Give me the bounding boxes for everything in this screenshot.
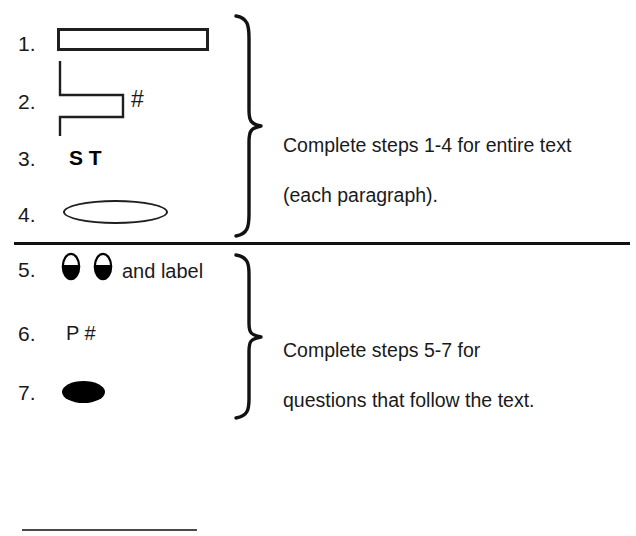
step-2-hash-label: #: [131, 88, 144, 111]
diagram-canvas: 1. 2. # 3. S T 4. 5. and label 6.: [0, 0, 636, 536]
step-5-and-label-text: and label: [122, 261, 203, 281]
step-4-hollow-ellipse-shape: [63, 200, 168, 224]
lower-note-line-2: questions that follow the text.: [283, 388, 534, 413]
brace-path: [236, 255, 261, 418]
upper-group-brace: [230, 14, 266, 238]
step-1-rectangle-shape: [57, 28, 209, 51]
step-6-p-hash-letters: P #: [66, 323, 96, 343]
step-5-half-shaded-oval-left: [61, 252, 81, 282]
zigzag-path: [60, 61, 123, 136]
step-number-1: 1.: [18, 33, 36, 54]
step-number-5: 5.: [18, 259, 36, 280]
upper-group-note: Complete steps 1-4 for entire text (each…: [283, 108, 571, 233]
step-7-filled-ellipse-shape: [62, 381, 105, 403]
lower-group-brace: [230, 253, 266, 420]
step-number-2: 2.: [18, 91, 36, 112]
step-3-st-letters: S T: [69, 147, 102, 168]
lower-group-note: Complete steps 5-7 for questions that fo…: [283, 313, 534, 438]
upper-note-line-2: (each paragraph).: [283, 183, 571, 208]
step-number-7: 7.: [18, 382, 36, 403]
step-number-6: 6.: [18, 323, 36, 344]
step-5-half-shaded-oval-right: [93, 252, 113, 282]
brace-path: [236, 16, 261, 236]
section-divider: [14, 242, 630, 245]
lower-note-line-1: Complete steps 5-7 for: [283, 338, 534, 363]
step-number-3: 3.: [18, 148, 36, 169]
step-2-zigzag-bracket-shape: [55, 60, 140, 138]
bottom-partial-box-edge: [22, 529, 197, 531]
step-number-4: 4.: [18, 204, 36, 225]
upper-note-line-1: Complete steps 1-4 for entire text: [283, 133, 571, 158]
